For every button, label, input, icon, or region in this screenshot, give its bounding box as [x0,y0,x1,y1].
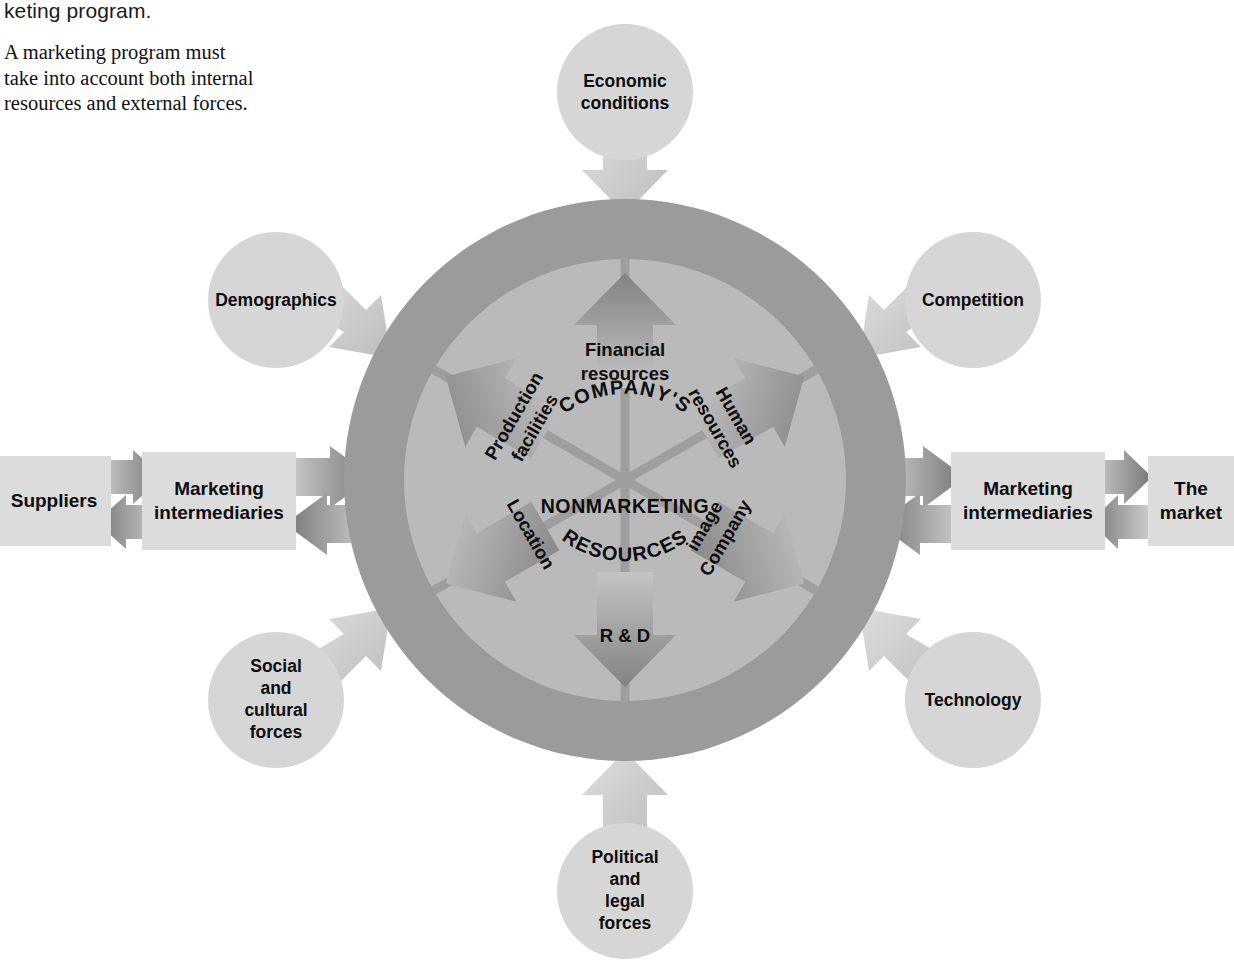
box-the-market[interactable] [1148,456,1234,546]
label-left-intermediaries-line2: intermediaries [154,502,284,523]
label-political-legal-line3: legal [605,891,645,911]
label-right-intermediaries-line2: intermediaries [963,502,1093,523]
box-marketing-intermediaries-left[interactable] [142,452,296,550]
label-left-intermediaries-line1: Marketing [174,478,264,499]
box-marketing-intermediaries-right[interactable] [951,452,1105,550]
label-right-intermediaries-line1: Marketing [983,478,1073,499]
marketing-environment-diagram: Financial resources R & D Human resource… [0,0,1234,971]
label-suppliers: Suppliers [11,490,98,511]
label-social-cultural-line2: and [260,678,291,698]
label-economic-conditions-line1: Economic [583,71,667,91]
label-economic-conditions-line2: conditions [581,93,670,113]
segment-label-financial-resources-line1: Financial [585,339,665,360]
segment-label-r-and-d: R & D [600,625,650,646]
label-social-cultural-line3: cultural [244,700,307,720]
label-competition: Competition [922,290,1024,310]
label-technology: Technology [925,690,1022,710]
core-text-nonmarketing: NONMARKETING [541,495,710,517]
label-the-market-line1: The [1174,478,1208,499]
label-social-cultural-line1: Social [250,656,302,676]
label-demographics: Demographics [215,290,337,310]
label-political-legal-line2: and [609,869,640,889]
label-social-cultural-line4: forces [250,722,303,742]
label-political-legal-line1: Political [591,847,658,867]
label-political-legal-line4: forces [599,913,652,933]
company-resources-wheel: Financial resources R & D Human resource… [344,199,906,761]
label-the-market-line2: market [1160,502,1223,523]
